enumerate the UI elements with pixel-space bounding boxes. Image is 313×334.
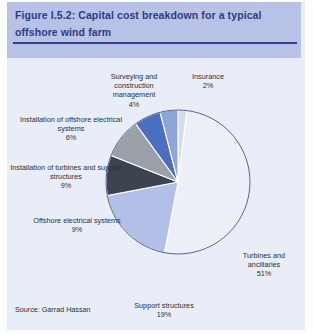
label-installation-of-offshore-electrical-systems: Installation of offshore electrical syst… xyxy=(15,115,127,143)
label-installation-of-turbines-and-support-structures: Installation of turbines and support str… xyxy=(7,163,125,191)
pie-chart-area: Surveying and construction management 4%… xyxy=(7,58,305,330)
label-offshore-electrical-systems: Offshore electrical systems 9% xyxy=(25,216,129,234)
label-support-structures: Support structures 19% xyxy=(112,301,216,319)
label-surveying-and-construction-management: Surveying and construction management 4% xyxy=(95,72,173,109)
figure-title: Figure I.5.2: Capital cost breakdown for… xyxy=(15,7,295,41)
label-turbines-and-ancillaries: Turbines and ancillaries 51% xyxy=(229,251,299,279)
figure-container: Figure I.5.2: Capital cost breakdown for… xyxy=(0,0,313,334)
label-insurance: Insurance 2% xyxy=(180,72,236,90)
title-divider xyxy=(13,42,297,44)
figure-source: Source: Garrad Hassan xyxy=(15,305,91,314)
